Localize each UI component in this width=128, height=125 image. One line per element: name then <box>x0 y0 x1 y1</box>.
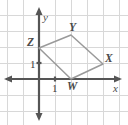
vertex-label-y: Y <box>69 21 77 33</box>
vertex-label-x: X <box>104 52 113 64</box>
y-axis-tick-label: 1 <box>30 58 36 70</box>
vertex-label-w: W <box>67 80 78 92</box>
coordinate-plane-svg: x y 1 1 W X Y Z <box>0 0 128 125</box>
x-axis-label: x <box>112 82 118 94</box>
vertex-label-z: Z <box>26 36 34 48</box>
y-axis-label: y <box>42 11 48 23</box>
y-axis-arrow-up <box>36 7 43 15</box>
x-axis-tick-label: 1 <box>52 82 58 94</box>
coordinate-plane-figure: x y 1 1 W X Y Z <box>0 0 128 125</box>
x-axis-arrow-left <box>4 76 12 83</box>
axes <box>4 7 122 121</box>
y-axis-arrow-down <box>36 113 43 121</box>
